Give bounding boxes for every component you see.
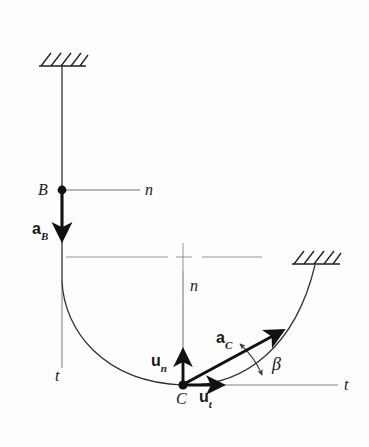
vector-a-b-label-base: a [32, 220, 41, 237]
vector-a-b-label: aB [32, 221, 48, 240]
vector-a-c-label-base: a [216, 329, 225, 346]
centerline [66, 243, 262, 271]
right-support [292, 251, 341, 264]
vector-u-t-label-base: u [199, 388, 209, 405]
vector-u-t-label-sub: t [209, 398, 212, 410]
vector-u-n-label-base: u [151, 352, 161, 369]
axis-t-label-at-b: t [55, 368, 59, 384]
mechanics-figure: B n aB t n un C ut aC β t [0, 0, 369, 447]
point-c-label: C [176, 391, 187, 407]
axis-t-label-at-c: t [344, 377, 348, 393]
vector-u-n-label-sub: n [161, 362, 167, 374]
vector-a-c-label: aC [216, 330, 232, 349]
axis-n-label-at-c: n [190, 278, 198, 294]
vector-a-c-label-sub: C [225, 339, 232, 351]
vector-u-t-label: ut [199, 389, 212, 408]
angle-beta-label: β [272, 355, 281, 373]
axis-n-label-at-b: n [145, 182, 153, 198]
vector-a-b-label-sub: B [41, 230, 48, 242]
left-support [39, 53, 88, 66]
point-b-label: B [38, 182, 48, 198]
vector-u-n-label: un [151, 353, 167, 372]
point-c-marker [178, 380, 187, 389]
